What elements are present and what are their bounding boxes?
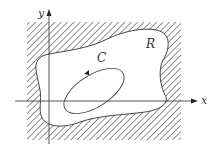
y-axis-label: y [37,7,45,20]
x-axis-label: x [201,94,208,107]
curve-label: C [97,51,106,65]
y-axis-arrow-icon [47,9,52,16]
x-axis-arrow-icon [191,99,198,104]
region-label: R [145,37,155,51]
region-diagram: y x R C [0,0,218,151]
